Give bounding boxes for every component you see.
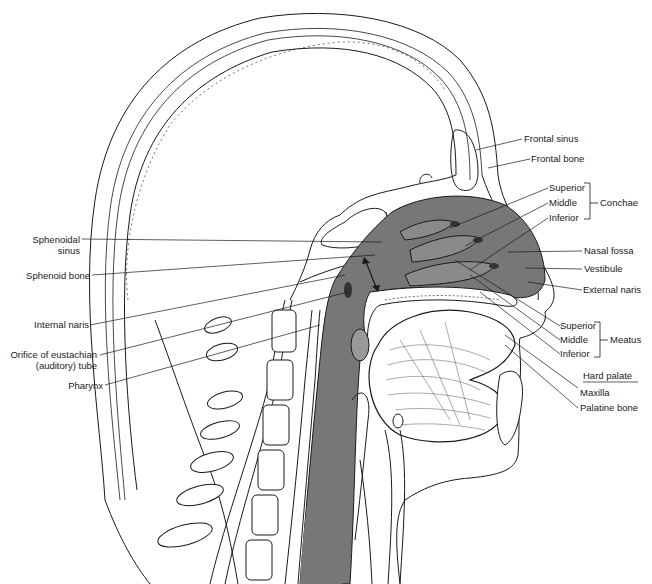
label-sphenoidal-sinus-1: Sphenoidal [32, 234, 80, 245]
label-sphenoid-bone: Sphenoid bone [26, 270, 90, 281]
label-conchae: Conchae [600, 197, 638, 208]
label-conchae-middle: Middle [549, 197, 577, 208]
tonsil [351, 329, 369, 361]
label-palatine-bone: Palatine bone [580, 402, 638, 413]
label-meatus: Meatus [610, 334, 641, 345]
label-external-naris: External naris [583, 284, 641, 295]
label-maxilla: Maxilla [580, 387, 610, 398]
label-frontal-sinus: Frontal sinus [524, 133, 578, 144]
label-eustachian-2: (auditory) tube [36, 360, 97, 371]
label-sphenoidal-sinus-2: sinus [58, 245, 80, 256]
tongue [369, 310, 515, 442]
hyoid-bone [393, 414, 403, 428]
label-nasal-fossa: Nasal fossa [584, 245, 634, 256]
label-hard-palate: Hard palate [583, 370, 632, 381]
meatus-bracket [594, 322, 608, 357]
anatomy-illustration [0, 0, 652, 584]
label-vestibule: Vestibule [584, 263, 623, 274]
label-meatus-inferior: Inferior [560, 348, 590, 359]
frontal-sinus-shape [451, 130, 478, 191]
nasal-cavity-diagram: Frontal sinus Frontal bone Superior Midd… [0, 0, 652, 584]
label-conchae-inferior: Inferior [549, 212, 579, 223]
label-pharynx: Pharynx [68, 380, 103, 391]
conchae-bracket [584, 183, 598, 219]
label-internal-naris: Internal naris [34, 319, 89, 330]
label-conchae-superior: Superior [549, 182, 585, 193]
label-meatus-middle: Middle [560, 334, 588, 345]
label-frontal-bone: Frontal bone [531, 153, 584, 164]
label-eustachian-1: Orifice of eustachian [10, 349, 97, 360]
label-meatus-superior: Superior [560, 320, 596, 331]
